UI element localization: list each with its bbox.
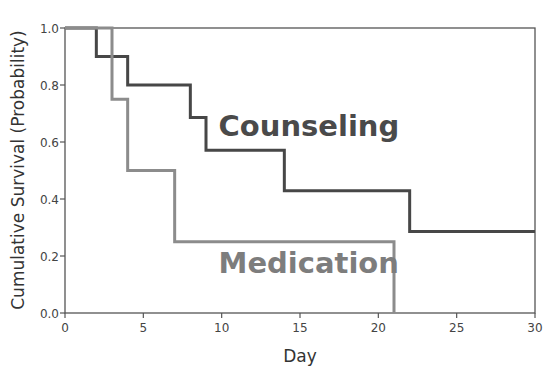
kaplan-meier-chart: 0.00.20.40.60.81.0 051015202530 Counseli… xyxy=(0,0,555,382)
chart-canvas: 0.00.20.40.60.81.0 051015202530 Counseli… xyxy=(0,0,555,382)
x-tick-label: 30 xyxy=(527,321,542,335)
y-tick-label: 0.4 xyxy=(40,193,59,207)
y-tick-label: 1.0 xyxy=(40,22,59,36)
x-tick-label: 20 xyxy=(371,321,386,335)
series-label-counseling: Counseling xyxy=(219,109,400,143)
x-tick-label: 25 xyxy=(449,321,464,335)
x-tick-label: 5 xyxy=(140,321,148,335)
series-labels: CounselingMedication xyxy=(219,109,400,280)
x-tick-label: 15 xyxy=(292,321,307,335)
y-tick-label: 0.6 xyxy=(40,136,59,150)
x-axis-title: Day xyxy=(283,346,317,366)
y-tick-label: 0.2 xyxy=(40,250,59,264)
x-tick-label: 10 xyxy=(214,321,229,335)
series-label-medication: Medication xyxy=(219,246,399,280)
y-tick-label: 0.8 xyxy=(40,79,59,93)
x-tick-label: 0 xyxy=(61,321,69,335)
y-axis: 0.00.20.40.60.81.0 xyxy=(40,22,65,321)
y-tick-label: 0.0 xyxy=(40,307,59,321)
x-axis: 051015202530 xyxy=(61,313,542,335)
y-axis-title: Cumulative Survival (Probability) xyxy=(8,30,28,310)
